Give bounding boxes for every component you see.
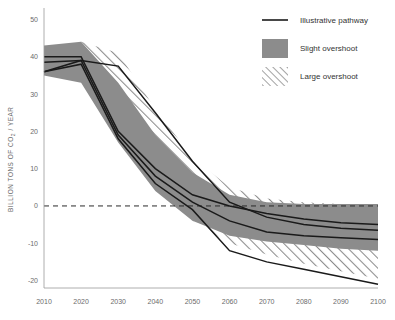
x-tick-label: 2100 bbox=[370, 298, 386, 305]
y-axis-title-text: BILLION TONS OF CO2 / YEAR bbox=[7, 106, 16, 212]
x-tick-label: 2060 bbox=[222, 298, 238, 305]
x-tick-label: 2030 bbox=[110, 298, 126, 305]
y-tick-label: -20 bbox=[28, 277, 38, 284]
x-tick-label: 2070 bbox=[259, 298, 275, 305]
x-tick-label: 2080 bbox=[296, 298, 312, 305]
legend-hatch-swatch bbox=[262, 67, 288, 86]
x-axis-ticks: 2010202020302040205020602070208020902100 bbox=[36, 298, 386, 305]
legend-label: Illustrative pathway bbox=[300, 16, 368, 25]
x-tick-label: 2040 bbox=[148, 298, 164, 305]
chart-legend: Illustrative pathwaySlight overshootLarg… bbox=[262, 16, 368, 86]
y-tick-label: -10 bbox=[28, 240, 38, 247]
x-tick-label: 2010 bbox=[36, 298, 52, 305]
legend-label: Large overshoot bbox=[300, 72, 359, 81]
y-tick-label: 30 bbox=[30, 91, 38, 98]
legend-solid-swatch bbox=[262, 39, 288, 58]
x-tick-label: 2020 bbox=[73, 298, 89, 305]
x-tick-label: 2090 bbox=[333, 298, 349, 305]
legend-item-large_overshoot: Large overshoot bbox=[262, 67, 359, 86]
legend-label: Slight overshoot bbox=[300, 44, 358, 53]
legend-item-illustrative_pathway: Illustrative pathway bbox=[262, 16, 368, 25]
y-tick-label: 0 bbox=[34, 202, 38, 209]
y-tick-label: 10 bbox=[30, 165, 38, 172]
y-tick-label: 40 bbox=[30, 53, 38, 60]
y-axis-title: BILLION TONS OF CO2 / YEAR bbox=[7, 106, 16, 212]
chart-canvas: 50403020100-10-20 2010202020302040205020… bbox=[0, 0, 395, 320]
y-tick-label: 20 bbox=[30, 128, 38, 135]
y-axis-ticks: 50403020100-10-20 bbox=[28, 16, 38, 284]
legend-item-slight_overshoot: Slight overshoot bbox=[262, 39, 358, 58]
x-tick-label: 2050 bbox=[185, 298, 201, 305]
y-tick-label: 50 bbox=[30, 16, 38, 23]
emissions-pathway-chart: 50403020100-10-20 2010202020302040205020… bbox=[0, 0, 395, 320]
